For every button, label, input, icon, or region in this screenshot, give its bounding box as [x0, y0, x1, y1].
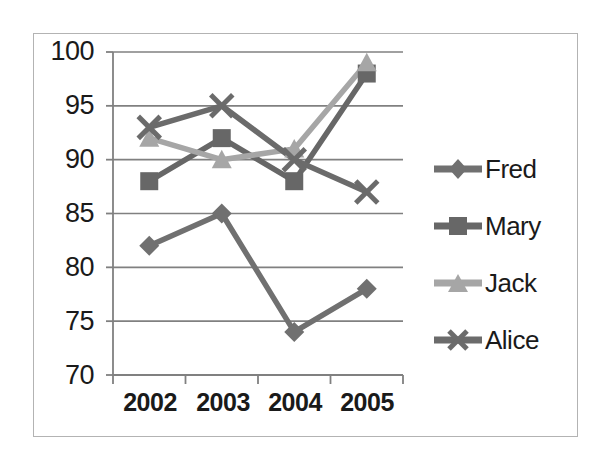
chart-legend: Fred Mary Jack	[432, 140, 562, 368]
marker-fred-2002	[139, 236, 159, 256]
legend-label-mary: Mary	[485, 213, 541, 239]
legend-label-fred: Fred	[485, 156, 536, 182]
legend-item-jack[interactable]: Jack	[432, 254, 562, 311]
axis-ticks-group	[106, 52, 403, 384]
series-line-fred	[149, 214, 366, 332]
series-line-mary	[149, 74, 366, 182]
marker-mary-2003	[213, 129, 231, 147]
series-line-jack	[149, 63, 366, 160]
series-lines-group	[149, 63, 366, 332]
legend-item-alice[interactable]: Alice	[432, 311, 562, 368]
marker-jack-2005	[357, 53, 377, 72]
marker-alice-2005	[356, 181, 378, 203]
legend-swatch-diamond-icon	[432, 156, 484, 182]
legend-label-jack: Jack	[485, 270, 536, 296]
line-chart-figure: 100 95 90 85 80 75 70 2002 2003 2004 200…	[0, 0, 611, 461]
legend-swatch-triangle-icon	[432, 270, 484, 296]
marker-mary-2002	[140, 172, 158, 190]
legend-item-mary[interactable]: Mary	[432, 197, 562, 254]
legend-label-alice: Alice	[485, 327, 539, 353]
legend-item-fred[interactable]: Fred	[432, 140, 562, 197]
marker-mary-2004	[285, 172, 303, 190]
legend-swatch-square-icon	[432, 213, 484, 239]
gridlines-group	[113, 52, 403, 375]
legend-swatch-cross-icon	[432, 327, 484, 353]
